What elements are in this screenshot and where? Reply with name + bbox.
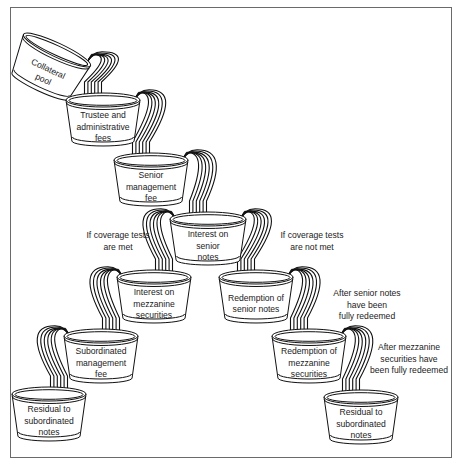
bucket-redemption-senior: Redemption ofsenior notes <box>219 270 293 323</box>
bucket-interest-mezzanine: Interest onmezzaninesecurities <box>117 270 191 323</box>
bucket-label: Interest onmezzaninesecurities <box>133 287 175 320</box>
bucket-trustee-fees: Trustee andadministrativefees <box>66 93 140 146</box>
annotation-after-mezzanine: After mezzaninesecurities havebeen fully… <box>370 342 448 375</box>
bucket-residual-left: Residual tosubordinatednotes <box>12 387 86 441</box>
bucket-senior-mgmt-fee: Seniormanagementfee <box>114 153 188 206</box>
bucket-sub-mgmt-fee: Subordinatedmanagementfee <box>64 329 138 383</box>
bucket-residual-right: Residual tosubordinatednotes <box>324 390 398 444</box>
bucket-redemption-mezzanine: Redemption ofmezzaninesecurities <box>272 329 346 383</box>
annotation-coverage-not-met: If coverage testsare not met <box>280 230 343 252</box>
bucket-interest-senior: Interest onseniornotes <box>170 212 246 265</box>
annotation-coverage-met: If coverage testsare met <box>86 230 149 252</box>
bucket-label: Redemption ofsenior notes <box>228 293 285 315</box>
annotation-after-senior: After senior noteshave beenfully redeeme… <box>333 288 400 321</box>
waterfall-diagram: CollateralpoolTrustee andadministrativef… <box>0 0 460 466</box>
